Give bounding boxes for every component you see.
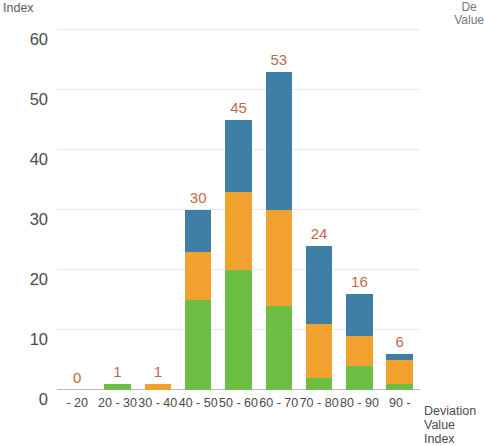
bar-segment-orange[interactable] bbox=[145, 384, 172, 390]
x-axis-title: Deviation Value Index bbox=[424, 404, 478, 446]
bar-value-label: 0 bbox=[73, 369, 81, 386]
bar-group[interactable]: 16 bbox=[339, 30, 379, 390]
y-axis-title: Index bbox=[3, 2, 34, 15]
bar-segment-green[interactable] bbox=[185, 300, 212, 390]
bar-stack[interactable]: 16 bbox=[346, 294, 373, 390]
bar-stack[interactable]: 1 bbox=[145, 384, 172, 390]
bar-segment-orange[interactable] bbox=[386, 360, 413, 384]
bar-value-label: 45 bbox=[230, 99, 247, 116]
bar-value-label: 24 bbox=[311, 225, 328, 242]
bar-segment-blue[interactable] bbox=[185, 210, 212, 252]
bar-stack[interactable]: 1 bbox=[104, 384, 131, 390]
bar-segment-green[interactable] bbox=[266, 306, 293, 390]
bar-value-label: 6 bbox=[396, 333, 404, 350]
bar-stack[interactable]: 45 bbox=[225, 120, 252, 390]
x-axis-tick-label: 50 - 60 bbox=[218, 396, 258, 410]
bar-segment-orange[interactable] bbox=[306, 324, 333, 378]
bar-value-label: 1 bbox=[154, 363, 162, 380]
bar-segment-orange[interactable] bbox=[266, 210, 293, 306]
x-axis-tick-label: 30 - 40 bbox=[138, 396, 178, 410]
x-axis-tick-label: 80 - 90 bbox=[339, 396, 379, 410]
bar-segment-blue[interactable] bbox=[266, 72, 293, 210]
bar-segment-blue[interactable] bbox=[346, 294, 373, 336]
bar-segment-green[interactable] bbox=[386, 384, 413, 390]
top-right-caption: De Value bbox=[454, 1, 484, 27]
x-axis-tick-label: 90 - bbox=[380, 396, 420, 410]
bar-series-group: 01130455324166 bbox=[57, 30, 420, 390]
bar-group[interactable]: 30 bbox=[178, 30, 218, 390]
bar-segment-orange[interactable] bbox=[185, 252, 212, 300]
bar-stack[interactable]: 30 bbox=[185, 210, 212, 390]
bar-group[interactable]: 53 bbox=[259, 30, 299, 390]
bar-segment-green[interactable] bbox=[104, 384, 131, 390]
x-axis-tick-label: 20 - 30 bbox=[97, 396, 137, 410]
bar-value-label: 1 bbox=[113, 363, 121, 380]
bar-group[interactable]: 1 bbox=[138, 30, 178, 390]
bar-segment-blue[interactable] bbox=[306, 246, 333, 324]
bar-value-label: 30 bbox=[190, 189, 207, 206]
bar-segment-green[interactable] bbox=[225, 270, 252, 390]
bar-segment-orange[interactable] bbox=[225, 192, 252, 270]
bar-stack[interactable]: 24 bbox=[306, 246, 333, 390]
bar-group[interactable]: 0 bbox=[57, 30, 97, 390]
bar-group[interactable]: 6 bbox=[380, 30, 420, 390]
bar-segment-green[interactable] bbox=[346, 366, 373, 390]
x-axis-tick-labels: - 2020 - 3030 - 4040 - 5050 - 6060 - 707… bbox=[57, 396, 420, 410]
bar-value-label: 53 bbox=[270, 51, 287, 68]
bar-group[interactable]: 45 bbox=[218, 30, 258, 390]
bar-stack[interactable]: 6 bbox=[386, 354, 413, 390]
plot-area: 6050403020100 01130455324166 bbox=[57, 30, 420, 390]
bar-segment-blue[interactable] bbox=[225, 120, 252, 192]
x-axis-tick-label: - 20 bbox=[57, 396, 97, 410]
bar-stack[interactable]: 53 bbox=[266, 72, 293, 390]
bar-group[interactable]: 24 bbox=[299, 30, 339, 390]
bar-group[interactable]: 1 bbox=[97, 30, 137, 390]
bar-segment-green[interactable] bbox=[306, 378, 333, 390]
x-axis-tick-label: 40 - 50 bbox=[178, 396, 218, 410]
bar-value-label: 16 bbox=[351, 273, 368, 290]
x-axis-tick-label: 70 - 80 bbox=[299, 396, 339, 410]
x-axis-tick-label: 60 - 70 bbox=[259, 396, 299, 410]
bar-segment-orange[interactable] bbox=[346, 336, 373, 366]
